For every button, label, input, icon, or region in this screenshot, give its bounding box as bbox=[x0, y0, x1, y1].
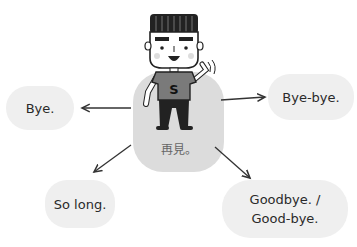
phrase-text: Goodbye. / bbox=[250, 190, 321, 209]
phrase-bubble-goodbye: Goodbye. / Good-bye. bbox=[222, 180, 348, 238]
phrase-text: So long. bbox=[54, 195, 107, 214]
phrase-text: Bye-bye. bbox=[282, 88, 339, 107]
phrase-bubble-bye-bye: Bye-bye. bbox=[268, 74, 354, 120]
phrase-bubble-bye: Bye. bbox=[6, 86, 74, 130]
center-label: 再見。 bbox=[133, 140, 224, 157]
phrase-text: Bye. bbox=[26, 99, 55, 118]
svg-text:S: S bbox=[169, 82, 178, 97]
phrase-text: Good-bye. bbox=[252, 209, 319, 228]
phrase-bubble-so-long: So long. bbox=[45, 180, 115, 228]
